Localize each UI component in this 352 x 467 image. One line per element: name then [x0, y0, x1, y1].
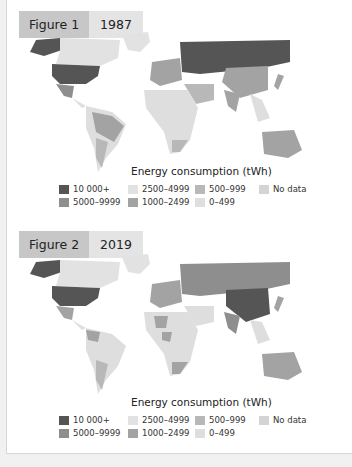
swatch [128, 429, 138, 438]
swatch [259, 185, 269, 194]
swatch [195, 185, 205, 194]
legend-item-5000-9999: 5000–9999 [59, 428, 121, 438]
swatch [195, 198, 205, 207]
swatch [59, 185, 69, 194]
legend-item-no-data: No data [259, 184, 306, 194]
figure-2-legend-title: Energy consumption (tWh) [131, 396, 272, 408]
legend-item-1000-2499: 1000–2499 [128, 428, 190, 438]
swatch [128, 416, 138, 425]
legend-item-10000-plus: 10 000+ [59, 184, 110, 194]
legend-item-1000-2499: 1000–2499 [128, 197, 190, 207]
swatch [59, 416, 69, 425]
swatch [259, 416, 269, 425]
legend-item-500-999: 500–999 [195, 415, 246, 425]
legend-item-2500-4999: 2500–4999 [128, 184, 190, 194]
legend-item-0-499: 0–499 [195, 428, 235, 438]
swatch [128, 185, 138, 194]
legend-item-0-499: 0–499 [195, 197, 235, 207]
swatch [128, 198, 138, 207]
figure-1-legend-title: Energy consumption (tWh) [131, 165, 272, 177]
figure-1-world-map [0, 28, 343, 178]
legend-item-500-999: 500–999 [195, 184, 246, 194]
figure-2-world-map [0, 250, 343, 400]
legend-item-2500-4999: 2500–4999 [128, 415, 190, 425]
legend-item-10000-plus: 10 000+ [59, 415, 110, 425]
legend-item-5000-9999: 5000–9999 [59, 197, 121, 207]
swatch [59, 429, 69, 438]
swatch [59, 198, 69, 207]
legend-item-no-data: No data [259, 415, 306, 425]
swatch [195, 429, 205, 438]
swatch [195, 416, 205, 425]
